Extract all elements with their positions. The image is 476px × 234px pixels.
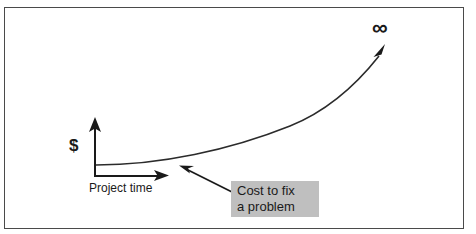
callout-line-1: Cost to fix <box>237 183 314 199</box>
callout-leader-line <box>186 169 232 192</box>
infinity-symbol: ∞ <box>372 17 388 39</box>
y-axis-label: $ <box>69 137 78 154</box>
cost-curve <box>96 56 379 165</box>
figure-root: $ ∞ Project time Cost to fix a problem <box>0 0 476 234</box>
callout-box: Cost to fix a problem <box>231 181 319 217</box>
curve-arrowhead-icon <box>374 44 386 62</box>
x-axis-label: Project time <box>89 181 152 195</box>
callout-line-2: a problem <box>237 199 314 215</box>
